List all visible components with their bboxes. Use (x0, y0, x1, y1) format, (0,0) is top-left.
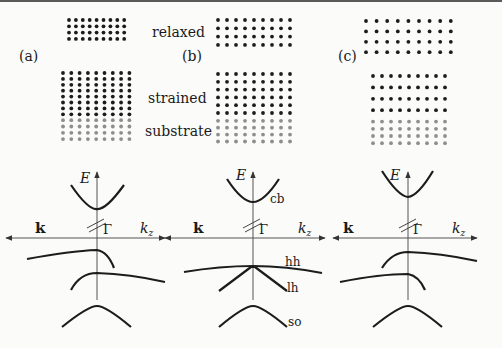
atom-dot (270, 80, 274, 84)
atom-dot (261, 96, 265, 100)
atom-dot (234, 140, 238, 144)
atom-dot (74, 37, 78, 41)
atom-dot (94, 112, 98, 116)
atom-dot (234, 96, 238, 100)
atom-dot (279, 35, 283, 39)
atom-dot (261, 111, 265, 115)
atom-dot (127, 118, 131, 122)
atom-dot (288, 35, 292, 39)
atom-dot (216, 140, 220, 144)
atom-dot (407, 97, 411, 101)
panel-c-strained-lattice (371, 74, 447, 112)
atom-dot (425, 127, 429, 131)
atom-dot (78, 83, 82, 87)
atom-dot (407, 19, 411, 23)
atom-dot (243, 26, 247, 30)
panel-b-tag: (b) (182, 48, 202, 64)
energy-label: E (79, 170, 90, 186)
atom-dot (61, 89, 65, 93)
atom-dot (416, 97, 420, 101)
atom-dot (127, 131, 131, 135)
atom-dot (61, 101, 65, 105)
atom-dot (279, 103, 283, 107)
atom-dot (225, 43, 229, 47)
atom-dot (127, 112, 131, 116)
atom-dot (119, 71, 123, 75)
atom-dot (438, 50, 442, 54)
atom-dot (389, 134, 393, 138)
atom-dot (425, 97, 429, 101)
atom-dot (109, 37, 113, 41)
atom-dot (398, 74, 402, 78)
atom-dot (81, 24, 85, 28)
band-label-cb: cb (270, 192, 285, 206)
atom-dot (252, 96, 256, 100)
atom-dot (78, 71, 82, 75)
atom-dot (389, 74, 393, 78)
atom-dot (396, 19, 400, 23)
atom-dot (243, 88, 247, 92)
atom-dot (252, 119, 256, 123)
atom-dot (380, 120, 384, 124)
atom-dot (225, 72, 229, 76)
atom-dot (111, 118, 115, 122)
atom-dot (94, 101, 98, 105)
atom-dot (288, 43, 292, 47)
atom-dot (375, 19, 379, 23)
atom-dot (252, 26, 256, 30)
atom-dot (216, 111, 220, 115)
atom-dot (261, 103, 265, 107)
atom-dot (111, 112, 115, 116)
atom-dot (127, 71, 131, 75)
gamma-label: Γ (413, 222, 422, 237)
atom-dot (288, 126, 292, 130)
atom-dot (398, 141, 402, 145)
atom-dot (86, 137, 90, 141)
atom-dot (119, 118, 123, 122)
atom-dot (443, 134, 447, 138)
atom-dot (288, 72, 292, 76)
atom-dot (364, 40, 368, 44)
atom-dot (122, 24, 126, 28)
atom-dot (111, 131, 115, 135)
atom-dot (61, 125, 65, 129)
atom-dot (288, 18, 292, 22)
atom-dot (449, 50, 453, 54)
kz-label: kz (452, 220, 465, 238)
atom-dot (288, 26, 292, 30)
panel-a-substrate-lattice (61, 118, 131, 141)
atom-dot (103, 131, 107, 135)
atom-dot (398, 108, 402, 112)
k-label: k (35, 219, 46, 237)
atom-dot (78, 89, 82, 93)
atom-dot (279, 80, 283, 84)
atom-dot (94, 71, 98, 75)
atom-dot (438, 30, 442, 34)
atom-dot (216, 43, 220, 47)
atom-dot (119, 89, 123, 93)
atom-dot (428, 40, 432, 44)
atom-dot (428, 30, 432, 34)
atom-dot (261, 88, 265, 92)
atom-dot (252, 111, 256, 115)
atom-dot (225, 140, 229, 144)
atom-dot (86, 118, 90, 122)
atom-dot (69, 101, 73, 105)
atom-dot (416, 86, 420, 90)
atom-dot (111, 95, 115, 99)
atom-dot (88, 31, 92, 35)
atom-dot (78, 125, 82, 129)
atom-dot (103, 71, 107, 75)
atom-dot (380, 127, 384, 131)
atom-dot (119, 112, 123, 116)
atom-dot (103, 137, 107, 141)
atom-dot (225, 35, 229, 39)
atom-dot (119, 77, 123, 81)
atom-dot (119, 137, 123, 141)
atom-dot (371, 120, 375, 124)
atom-dot (449, 30, 453, 34)
atom-dot (252, 35, 256, 39)
atom-dot (111, 89, 115, 93)
atom-dot (86, 101, 90, 105)
atom-dot (371, 108, 375, 112)
